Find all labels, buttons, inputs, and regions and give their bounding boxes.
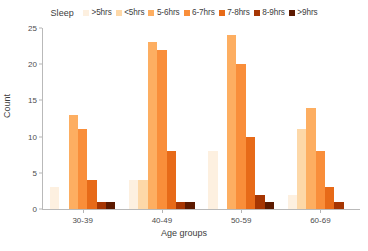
bar[interactable]	[167, 151, 176, 209]
chart-legend: Sleep >5hrs <5hrs 5-6hrs 6-7hrs 7-8hrs 8…	[0, 9, 368, 18]
bar[interactable]	[50, 187, 59, 209]
bar-group	[202, 28, 281, 209]
x-axis-title: Age groups	[0, 228, 368, 238]
legend-swatch-icon	[289, 10, 295, 16]
bar-group	[122, 28, 201, 209]
legend-item-label: 5-6hrs	[157, 9, 180, 17]
legend-item-label: 7-8hrs	[227, 9, 250, 17]
x-tick-mark	[241, 210, 242, 213]
x-tick-label: 60-69	[310, 216, 330, 225]
x-tick-mark	[83, 210, 84, 213]
bar[interactable]	[246, 137, 255, 209]
bar[interactable]	[176, 202, 185, 209]
legend-title: Sleep	[50, 9, 74, 18]
bar-group	[281, 28, 360, 209]
bar[interactable]	[297, 129, 306, 209]
bar-chart: Sleep >5hrs <5hrs 5-6hrs 6-7hrs 7-8hrs 8…	[0, 0, 368, 251]
legend-item[interactable]: >9hrs	[289, 9, 318, 17]
legend-swatch-icon	[219, 10, 225, 16]
legend-swatch-icon	[184, 10, 190, 16]
legend-swatch-icon	[116, 10, 122, 16]
bar[interactable]	[288, 195, 297, 209]
bars-container	[43, 28, 360, 209]
bar-group	[43, 28, 122, 209]
x-tick-mark	[320, 210, 321, 213]
bar[interactable]	[87, 180, 96, 209]
bar[interactable]	[208, 151, 217, 209]
bar[interactable]	[106, 202, 115, 209]
bar[interactable]	[78, 129, 87, 209]
bar[interactable]	[227, 35, 236, 209]
legend-item-label: <5hrs	[124, 9, 144, 17]
y-tick-label: 20	[28, 60, 37, 69]
legend-item[interactable]: >5hrs	[83, 9, 112, 17]
x-tick-mark	[162, 210, 163, 213]
x-tick-label: 40-49	[152, 216, 172, 225]
bar[interactable]	[236, 64, 245, 209]
legend-item-label: >5hrs	[91, 9, 111, 17]
legend-item[interactable]: 7-8hrs	[219, 9, 250, 17]
bar[interactable]	[265, 202, 274, 209]
y-tick-label: 10	[28, 132, 37, 141]
bar[interactable]	[325, 187, 334, 209]
y-tick-label: 15	[28, 96, 37, 105]
y-axis-ticks: 0510152025	[16, 26, 42, 209]
legend-swatch-icon	[254, 10, 260, 16]
y-tick-label: 25	[28, 24, 37, 33]
bar[interactable]	[69, 115, 78, 209]
bar[interactable]	[306, 108, 315, 209]
legend-swatch-icon	[148, 10, 154, 16]
bar[interactable]	[185, 202, 194, 209]
x-axis-ticks: 30-3940-4950-5960-69	[43, 210, 360, 230]
y-tick-label: 0	[33, 205, 37, 214]
x-tick-label: 50-59	[231, 216, 251, 225]
legend-item[interactable]: 5-6hrs	[148, 9, 179, 17]
legend-swatch-icon	[83, 10, 89, 16]
bar[interactable]	[138, 180, 147, 209]
legend-item-label: 6-7hrs	[192, 9, 215, 17]
legend-item[interactable]: <5hrs	[116, 9, 145, 17]
bar[interactable]	[129, 180, 138, 209]
bar[interactable]	[97, 202, 106, 209]
y-axis-title: Count	[2, 94, 12, 118]
plot-area: Count 0510152025 30-3940-4950-5960-69 Ag…	[0, 26, 368, 251]
bar[interactable]	[255, 195, 264, 209]
y-tick-label: 5	[33, 168, 37, 177]
legend-item-label: >9hrs	[297, 9, 317, 17]
x-tick-label: 30-39	[72, 216, 92, 225]
legend-item-label: 8-9hrs	[262, 9, 285, 17]
bar[interactable]	[316, 151, 325, 209]
legend-item[interactable]: 6-7hrs	[184, 9, 215, 17]
bar[interactable]	[148, 42, 157, 209]
bar[interactable]	[334, 202, 343, 209]
legend-item[interactable]: 8-9hrs	[254, 9, 285, 17]
bar[interactable]	[157, 50, 166, 209]
